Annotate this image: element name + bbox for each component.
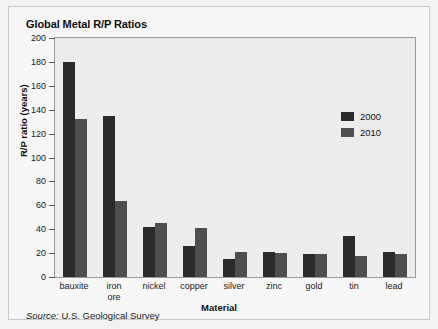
x-axis-tick-label: iron ore <box>94 281 134 303</box>
x-axis-tick-label: copper <box>174 281 214 292</box>
legend-item-2000[interactable]: 2000 <box>341 111 381 122</box>
chart-legend: 2000 2010 <box>341 111 381 143</box>
bar-lead-2010 <box>395 254 407 277</box>
y-axis-tick-label: 60 <box>36 200 46 210</box>
y-axis-tick-label: 200 <box>31 33 46 43</box>
bar-nickel-2010 <box>155 223 167 277</box>
bar-gold-2010 <box>315 254 327 277</box>
bar-iron-ore-2010 <box>115 201 127 277</box>
plot-area: 020406080100120140160180200 <box>54 37 416 278</box>
x-axis-tick-label: tin <box>334 281 374 292</box>
y-axis-tick-label: 120 <box>31 129 46 139</box>
chart-figure: Global Metal R/P Ratios 0204060801001201… <box>0 0 438 329</box>
x-axis-tick-label: zinc <box>254 281 294 292</box>
bar-silver-2000 <box>223 259 235 277</box>
y-axis-tick-label: 160 <box>31 81 46 91</box>
x-axis-tick-label: gold <box>294 281 334 292</box>
legend-item-2010[interactable]: 2010 <box>341 127 381 138</box>
y-axis-tick-label: 80 <box>36 176 46 186</box>
source-text: U.S. Geological Survey <box>61 310 159 321</box>
y-axis-tick <box>49 205 55 206</box>
bar-bauxite-2010 <box>75 119 87 277</box>
y-axis-tick <box>49 229 55 230</box>
plot-inner: 020406080100120140160180200 <box>55 38 415 277</box>
y-axis-tick-label: 0 <box>41 272 46 282</box>
y-axis-tick-label: 180 <box>31 57 46 67</box>
y-axis-tick <box>49 181 55 182</box>
source-note: Source: U.S. Geological Survey <box>26 310 160 321</box>
x-axis-tick-label: silver <box>214 281 254 292</box>
y-axis-title: R/P ratio (years) <box>18 84 29 157</box>
bar-silver-2010 <box>235 252 247 277</box>
x-axis-tick-label: lead <box>374 281 414 292</box>
chart-card: Global Metal R/P Ratios 0204060801001201… <box>8 6 430 320</box>
bar-tin-2010 <box>355 256 367 278</box>
y-axis-tick <box>49 62 55 63</box>
bar-iron-ore-2000 <box>103 116 115 277</box>
chart-title: Global Metal R/P Ratios <box>26 18 147 30</box>
y-axis-tick <box>49 86 55 87</box>
y-axis-tick <box>49 277 55 278</box>
bar-copper-2010 <box>195 228 207 277</box>
y-axis-tick-label: 20 <box>36 248 46 258</box>
bar-gold-2000 <box>303 254 315 277</box>
legend-swatch-icon <box>341 112 354 121</box>
x-axis-tick-label: bauxite <box>54 281 94 292</box>
x-axis-tick-label: nickel <box>134 281 174 292</box>
bar-zinc-2010 <box>275 253 287 277</box>
bar-tin-2000 <box>343 236 355 277</box>
y-axis-tick-label: 140 <box>31 105 46 115</box>
y-axis-tick-label: 40 <box>36 224 46 234</box>
y-axis-tick <box>49 38 55 39</box>
y-axis-tick <box>49 158 55 159</box>
bar-bauxite-2000 <box>63 62 75 277</box>
bar-zinc-2000 <box>263 252 275 277</box>
bar-copper-2000 <box>183 246 195 277</box>
bar-lead-2000 <box>383 252 395 277</box>
bar-nickel-2000 <box>143 227 155 277</box>
source-prefix: Source: <box>26 310 59 321</box>
y-axis-tick-label: 100 <box>31 153 46 163</box>
y-axis-tick <box>49 253 55 254</box>
y-axis-tick <box>49 110 55 111</box>
legend-swatch-icon <box>341 128 354 137</box>
legend-label: 2010 <box>360 127 381 138</box>
legend-label: 2000 <box>360 111 381 122</box>
y-axis-tick <box>49 134 55 135</box>
